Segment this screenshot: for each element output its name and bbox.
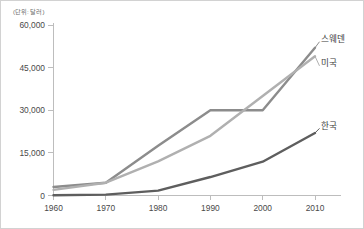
x-tick-label: 1970 [96, 203, 115, 213]
y-tick-label: 30,000 [19, 105, 45, 115]
x-tick-label: 1960 [44, 203, 63, 213]
y-axis-ticks [48, 25, 54, 196]
x-tick-label: 1980 [149, 203, 168, 213]
x-tick-label: 2000 [253, 203, 272, 213]
y-tick-label: 15,000 [19, 148, 45, 158]
unit-note-label: (단위: 달러) [13, 8, 45, 16]
series-label-스웨덴: 스웨덴 [321, 33, 345, 44]
series-labels-group: 스웨덴미국한국 [315, 33, 345, 133]
series-label-한국: 한국 [321, 121, 337, 131]
x-axis-ticks [54, 196, 316, 201]
y-tick-label: 45,000 [19, 63, 45, 73]
chart-figure: (단위: 달러) 015,00030,00045,00060,000 19601… [0, 0, 364, 229]
x-axis-tick-labels: 196019701980199020002010 [44, 203, 324, 213]
series-leader-미국 [315, 56, 320, 66]
y-tick-label: 0 [40, 191, 45, 201]
series-line-미국 [54, 56, 316, 190]
line-chart-canvas: (단위: 달러) 015,00030,00045,00060,000 19601… [1, 1, 364, 229]
series-line-스웨덴 [54, 48, 316, 187]
series-label-미국: 미국 [321, 58, 337, 68]
y-tick-label: 60,000 [19, 20, 45, 30]
y-axis-tick-labels: 015,00030,00045,00060,000 [19, 20, 45, 201]
series-leader-스웨덴 [315, 42, 320, 48]
x-tick-label: 2010 [306, 203, 325, 213]
series-line-한국 [54, 133, 316, 195]
series-leader-한국 [315, 128, 320, 133]
x-tick-label: 1990 [201, 203, 220, 213]
series-lines-group [54, 48, 316, 195]
